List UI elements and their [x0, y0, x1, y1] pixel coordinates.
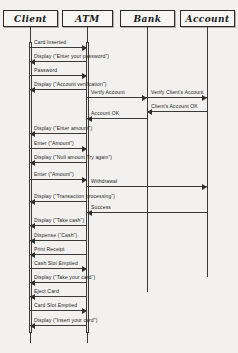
message-line [87, 118, 147, 119]
message-arrowhead [142, 95, 147, 101]
message-line [30, 240, 87, 241]
message-arrowhead [82, 45, 87, 51]
message-arrowhead [30, 223, 35, 229]
message-label: Display ("Take cash") [34, 217, 84, 223]
message-label: Withdrawal [91, 178, 117, 184]
lifeline-header-bank: Bank [120, 10, 175, 27]
message-arrowhead [30, 160, 35, 166]
message-line [30, 201, 87, 202]
message-line [147, 97, 207, 98]
lifeline-header-account: Account [180, 10, 235, 27]
message-line [87, 186, 207, 187]
message-label: Display ("Account verification") [34, 81, 107, 87]
message-label: Display ("Take your card") [34, 274, 95, 280]
message-label: Dispense ("Cash") [34, 232, 77, 238]
message-arrowhead [30, 59, 35, 65]
message-line [30, 268, 87, 269]
message-arrowhead [30, 323, 35, 329]
message-line [147, 111, 207, 112]
message-label: Account OK [91, 110, 119, 116]
message-arrowhead [30, 252, 35, 258]
message-label: Verify Client's Account [151, 89, 204, 95]
lifeline-header-atm: ATM [62, 10, 113, 27]
message-line [30, 296, 87, 297]
activation-bar-client [29, 42, 32, 333]
message-label: Display ("Null amount Try again") [34, 154, 112, 160]
message-arrowhead [82, 146, 87, 152]
message-label: Display ("Enter your password") [34, 53, 109, 59]
message-line [30, 179, 87, 180]
message-line [30, 254, 87, 255]
message-arrowhead [87, 116, 92, 122]
message-line [30, 61, 87, 62]
message-label: Print Receipt [34, 246, 65, 252]
message-label: Verify Account [91, 89, 125, 95]
message-label: Cash Slot Emptied [34, 260, 78, 266]
message-line [30, 310, 87, 311]
message-line [87, 212, 207, 213]
message-label: Success [91, 204, 111, 210]
message-arrowhead [82, 73, 87, 79]
message-arrowhead [82, 308, 87, 314]
message-arrowhead [30, 294, 35, 300]
message-arrowhead [30, 199, 35, 205]
message-arrowhead [202, 184, 207, 190]
message-line [30, 47, 87, 48]
message-line [87, 97, 147, 98]
message-label: Display ("Enter amount") [34, 125, 92, 131]
lifeline-account [207, 27, 208, 277]
message-label: Client's Account OK [151, 103, 198, 109]
message-arrowhead [87, 210, 92, 216]
message-label: Display ("Insert your card") [34, 317, 97, 323]
message-line [30, 282, 87, 283]
message-arrowhead [30, 131, 35, 137]
message-label: Eject Card [34, 288, 59, 294]
message-line [30, 225, 87, 226]
message-arrowhead [147, 109, 152, 115]
message-label: Card Inserted [34, 39, 66, 45]
message-label: Display ("Transaction processing") [34, 193, 115, 199]
message-line [30, 133, 87, 134]
lifeline-bank [147, 27, 148, 292]
message-label: Enter ("Amount") [34, 140, 74, 146]
lifeline-label-atm: ATM [75, 14, 99, 24]
message-line [30, 148, 87, 149]
message-arrowhead [30, 87, 35, 93]
message-arrowhead [202, 95, 207, 101]
message-label: Card Slot Emptied [34, 302, 77, 308]
message-arrowhead [82, 266, 87, 272]
message-line [30, 89, 87, 90]
sequence-diagram-canvas: ClientATMBankAccountCard InsertedDisplay… [0, 0, 238, 353]
lifeline-label-account: Account [186, 14, 230, 24]
message-line [30, 162, 87, 163]
message-label: Enter ("Amount") [34, 171, 74, 177]
message-label: Password [34, 67, 57, 73]
lifeline-label-client: Client [14, 14, 47, 24]
message-line [30, 75, 87, 76]
message-arrowhead [82, 177, 87, 183]
message-arrowhead [30, 238, 35, 244]
message-line [30, 325, 87, 326]
lifeline-label-bank: Bank [134, 14, 162, 24]
message-arrowhead [30, 280, 35, 286]
lifeline-header-client: Client [3, 10, 58, 27]
